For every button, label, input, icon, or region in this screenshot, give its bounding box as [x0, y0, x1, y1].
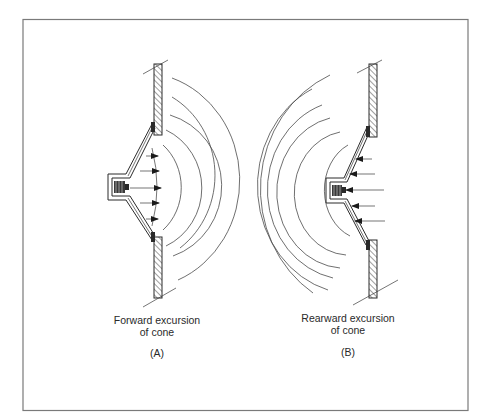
speaker-excursion-diagram: Forward excursion of cone (A): [0, 0, 483, 416]
sound-waves-a: [163, 78, 240, 280]
baffle-top-b: [357, 60, 382, 137]
arrows-a-outward: [130, 156, 161, 219]
baffle-top-a: [143, 60, 168, 135]
panel-a-speaker: [108, 60, 240, 307]
caption-a-line2: of cone: [140, 326, 175, 338]
caption-b-line1: Rearward excursion: [301, 312, 395, 324]
panel-tag-b: (B): [341, 346, 355, 358]
baffle-bottom-b: [353, 240, 398, 305]
figure-frame: [23, 20, 468, 411]
caption-a-line1: Forward excursion: [114, 314, 201, 326]
diaphragm-a: [152, 148, 157, 226]
baffle-bottom-a: [143, 237, 176, 307]
arrows-b-inward: [346, 159, 385, 221]
panel-b-speaker: [257, 60, 398, 305]
magnet-a: [114, 181, 129, 193]
caption-b-line2: of cone: [331, 324, 366, 336]
sound-waves-b: [257, 75, 350, 293]
magnet-b: [332, 185, 346, 196]
panel-tag-a: (A): [150, 347, 164, 359]
